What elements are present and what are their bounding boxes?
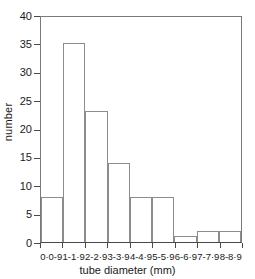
histogram-bar bbox=[174, 236, 196, 242]
histogram-bar bbox=[197, 231, 219, 242]
y-axis-tick-label: 40 bbox=[8, 11, 32, 22]
bar-cell bbox=[41, 17, 63, 242]
x-axis-tick-label: 3-3·9 bbox=[107, 250, 129, 263]
bar-cell bbox=[174, 17, 196, 242]
x-axis-tick bbox=[220, 243, 221, 248]
bar-cell bbox=[197, 17, 219, 242]
x-axis-tick-labels: 0·0-91-1·92-2·93-3·94-4·95-5·96-6·97-7·9… bbox=[40, 250, 242, 263]
bar-series bbox=[41, 17, 241, 242]
x-axis-tick-label: 8-8·9 bbox=[220, 250, 242, 263]
x-axis-tick bbox=[40, 243, 41, 248]
x-axis-tick bbox=[175, 243, 176, 248]
x-axis-tick-label: 5-5·9 bbox=[152, 250, 174, 263]
x-axis-tick bbox=[85, 243, 86, 248]
histogram-bar bbox=[152, 197, 174, 242]
histogram-bar bbox=[219, 231, 241, 242]
bar-cell bbox=[152, 17, 174, 242]
y-axis-tick-label: 0 bbox=[8, 238, 32, 249]
x-axis-tick bbox=[242, 243, 243, 248]
y-axis-title: number bbox=[0, 0, 16, 243]
bar-cell bbox=[130, 17, 152, 242]
histogram-figure: number 0510152025303540 0·0-91-1·92-2·93… bbox=[0, 0, 255, 279]
x-axis-tick bbox=[197, 243, 198, 248]
bar-cell bbox=[108, 17, 130, 242]
x-axis-title: tube diameter (mm) bbox=[0, 264, 255, 277]
histogram-bar bbox=[63, 43, 85, 242]
y-axis-tick-label: 25 bbox=[8, 96, 32, 107]
y-axis-tick-label: 20 bbox=[8, 124, 32, 135]
x-axis-tick bbox=[152, 243, 153, 248]
bar-cell bbox=[219, 17, 241, 242]
y-axis-tick-label: 15 bbox=[8, 152, 32, 163]
bar-cell bbox=[85, 17, 107, 242]
histogram-bar bbox=[85, 111, 107, 242]
bar-cell bbox=[63, 17, 85, 242]
x-axis-tick bbox=[107, 243, 108, 248]
x-axis-tick-label: 6-6·9 bbox=[175, 250, 197, 263]
y-axis-tick-label: 30 bbox=[8, 67, 32, 78]
x-axis-tick-label: 2-2·9 bbox=[85, 250, 107, 263]
y-axis-tick-label: 5 bbox=[8, 209, 32, 220]
y-axis-tick-label: 10 bbox=[8, 181, 32, 192]
x-axis-tick-label: 0·0-9 bbox=[40, 250, 62, 263]
x-axis-tick-label: 4-4·9 bbox=[130, 250, 152, 263]
histogram-bar bbox=[130, 197, 152, 242]
x-axis-tick bbox=[62, 243, 63, 248]
y-axis-tick-label: 35 bbox=[8, 39, 32, 50]
histogram-bar bbox=[41, 197, 63, 242]
x-axis-tick bbox=[130, 243, 131, 248]
plot-area bbox=[40, 16, 242, 243]
histogram-bar bbox=[108, 163, 130, 242]
x-axis-tick-label: 1-1·9 bbox=[62, 250, 84, 263]
x-axis-tick-label: 7-7·9 bbox=[197, 250, 219, 263]
